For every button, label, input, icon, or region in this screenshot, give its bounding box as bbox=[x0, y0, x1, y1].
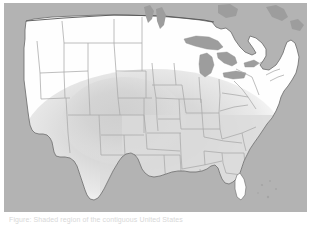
figure-caption: Figure: Shaded region of the contiguous … bbox=[9, 215, 304, 226]
map-frame bbox=[4, 3, 307, 212]
us-map bbox=[4, 3, 307, 212]
figure-container: Figure: Shaded region of the contiguous … bbox=[0, 0, 310, 226]
